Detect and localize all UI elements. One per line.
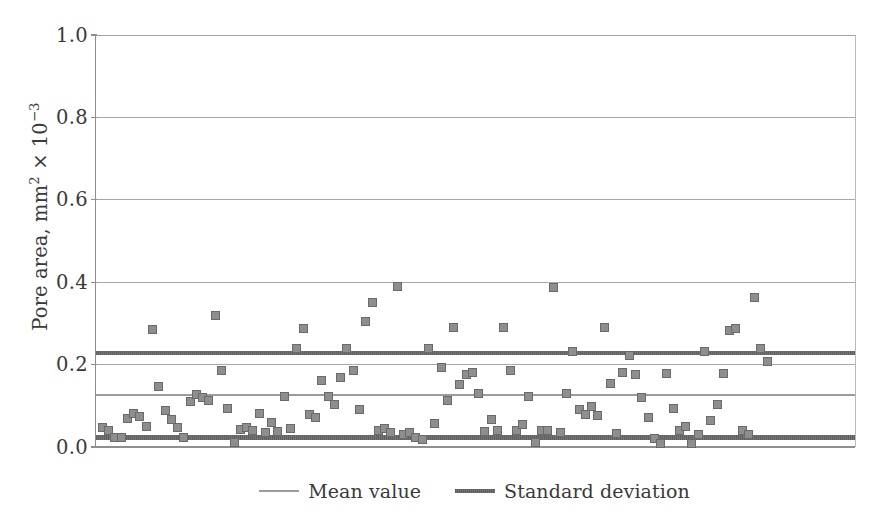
y-tick-label-0-8: 0.8	[36, 108, 88, 128]
data-point	[280, 392, 289, 401]
y-tick-label-0-6: 0.6	[36, 190, 88, 210]
data-point	[606, 379, 615, 388]
data-point	[368, 298, 377, 307]
y-tick-label-0-4: 0.4	[36, 273, 88, 293]
plot-area	[95, 35, 856, 447]
data-point	[342, 344, 351, 353]
data-point	[349, 366, 358, 375]
data-point	[336, 373, 345, 382]
data-point	[142, 422, 151, 431]
data-point	[286, 424, 295, 433]
data-point	[386, 428, 395, 437]
data-point	[361, 317, 370, 326]
data-point	[311, 413, 320, 422]
data-point	[506, 366, 515, 375]
data-point	[637, 393, 646, 402]
data-point	[618, 368, 627, 377]
chart-legend: Mean valueStandard deviation	[95, 470, 854, 512]
data-point	[455, 380, 464, 389]
data-point	[299, 324, 308, 333]
legend-line-swatch-std	[455, 489, 495, 494]
data-point	[531, 438, 540, 447]
data-point	[179, 433, 188, 442]
data-point	[261, 428, 270, 437]
data-point	[292, 344, 301, 353]
data-point	[393, 282, 402, 291]
data-point	[217, 366, 226, 375]
y-tick-mark	[91, 34, 97, 35]
data-point	[443, 396, 452, 405]
data-point	[587, 402, 596, 411]
gridline-0-2	[96, 364, 855, 365]
gridline-0-8	[96, 117, 855, 118]
data-point	[662, 369, 671, 378]
data-point	[600, 323, 609, 332]
data-point	[161, 406, 170, 415]
data-point	[355, 405, 364, 414]
data-point	[418, 435, 427, 444]
data-point	[148, 325, 157, 334]
data-point	[625, 351, 634, 360]
data-point	[487, 415, 496, 424]
y-tick-mark	[91, 199, 97, 200]
data-point	[204, 396, 213, 405]
data-point	[468, 368, 477, 377]
plot-inner	[96, 35, 855, 447]
data-point	[687, 439, 696, 448]
reference-line-std	[96, 351, 855, 355]
gridline-1-0	[96, 35, 855, 36]
data-point	[474, 389, 483, 398]
data-point	[135, 412, 144, 421]
data-point	[669, 404, 678, 413]
data-point	[681, 422, 690, 431]
data-point	[694, 430, 703, 439]
data-point	[267, 418, 276, 427]
data-point	[612, 429, 621, 438]
data-point	[430, 419, 439, 428]
data-point	[556, 428, 565, 437]
data-point	[230, 438, 239, 447]
legend-label: Standard deviation	[504, 480, 690, 502]
data-point	[756, 344, 765, 353]
data-point	[700, 347, 709, 356]
data-point	[449, 323, 458, 332]
scatter-chart-figure: Pore area, mm2 × 10−3 1.00.80.60.40.20.0…	[0, 0, 882, 512]
data-point	[317, 376, 326, 385]
data-point	[330, 400, 339, 409]
data-point	[713, 400, 722, 409]
data-point	[493, 426, 502, 435]
gridline-0-4	[96, 282, 855, 283]
y-tick-mark	[91, 364, 97, 365]
data-point	[437, 363, 446, 372]
data-point	[763, 357, 772, 366]
data-point	[211, 311, 220, 320]
reference-line-std	[96, 435, 855, 439]
legend-item-mean: Mean value	[259, 480, 421, 502]
y-axis-tick-labels: 1.00.80.60.40.20.0	[34, 0, 88, 470]
data-point	[255, 409, 264, 418]
y-tick-label-0-0: 0.0	[36, 438, 88, 458]
y-tick-label-0-2: 0.2	[36, 355, 88, 375]
legend-label: Mean value	[308, 480, 421, 502]
data-point	[117, 433, 126, 442]
data-point	[706, 416, 715, 425]
y-tick-mark	[91, 117, 97, 118]
data-point	[223, 404, 232, 413]
data-point	[568, 347, 577, 356]
data-point	[518, 420, 527, 429]
data-point	[562, 389, 571, 398]
data-point	[644, 413, 653, 422]
data-point	[543, 426, 552, 435]
data-point	[593, 411, 602, 420]
data-point	[424, 344, 433, 353]
legend-item-std: Standard deviation	[455, 480, 690, 502]
data-point	[248, 426, 257, 435]
y-tick-label-1-0: 1.0	[36, 26, 88, 46]
data-point	[524, 392, 533, 401]
data-point	[154, 382, 163, 391]
data-point	[719, 369, 728, 378]
data-point	[656, 439, 665, 448]
data-point	[631, 370, 640, 379]
data-point	[731, 324, 740, 333]
legend-line-swatch-mean	[259, 490, 299, 493]
